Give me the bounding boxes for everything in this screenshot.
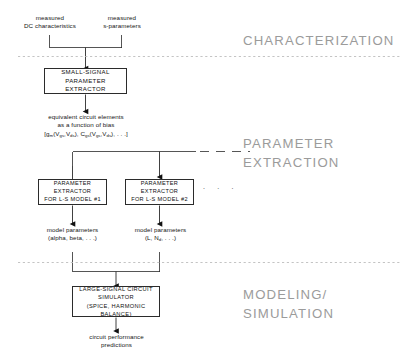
equivalent-circuit-formula: [gm(Vgs,Vds), Cgs(Vgs,Vds), . . .]	[22, 130, 150, 138]
model-params-left-line2: (alpha, beta, . . .)	[30, 234, 115, 242]
model-params-left-line1: model parameters	[30, 226, 115, 234]
input-sparam-line2: s-parameters	[82, 22, 162, 30]
box-small-signal-line2: PARAMETER EXTRACTOR	[45, 77, 126, 94]
box-extractor-2-text: PARAMETER EXTRACTOR FOR L-S MODEL #2	[126, 180, 193, 204]
formula-mid-5: ,V	[101, 130, 107, 137]
formula-mid-4: (V	[90, 130, 96, 137]
section-modeling-line2: SIMULATION	[243, 305, 334, 324]
formula-sub-ds-2: ds	[107, 133, 112, 138]
section-label-parameter-extraction: PARAMETER EXTRACTION	[243, 135, 340, 172]
box-extractor-1-text: PARAMETER EXTRACTOR FOR L-S MODEL #1	[39, 180, 106, 204]
section-label-modeling-simulation: MODELING/ SIMULATION	[243, 286, 334, 323]
box-small-signal-parameter-extractor[interactable]: SMALL-SIGNAL PARAMETER EXTRACTOR	[44, 68, 127, 94]
formula-mid-1: (V	[53, 130, 59, 137]
model-params-right-prefix: (L, N	[145, 234, 159, 241]
formula-sub-gs-2: gs	[85, 133, 90, 138]
model-params-right-sub-d: d	[159, 237, 161, 242]
box-parameter-extractor-model-2[interactable]: PARAMETER EXTRACTOR FOR L-S MODEL #2	[125, 179, 194, 205]
input-label-dc: measured DC characteristics	[6, 14, 94, 30]
formula-sub-ds-1: ds	[70, 133, 75, 138]
box-small-signal-text: SMALL-SIGNAL PARAMETER EXTRACTOR	[45, 68, 126, 94]
box-extractor-2-line1: PARAMETER EXTRACTOR	[126, 180, 193, 196]
box-extractor-1-line2: FOR L-S MODEL #1	[39, 196, 106, 204]
box-parameter-extractor-model-1[interactable]: PARAMETER EXTRACTOR FOR L-S MODEL #1	[38, 179, 107, 205]
formula-suffix: ), . . .]	[111, 130, 128, 137]
extractor-ellipsis: . . .	[203, 183, 239, 190]
box-extractor-2-line2: FOR L-S MODEL #2	[126, 196, 193, 204]
input-sparam-line1: measured	[82, 14, 162, 22]
formula-mid-3: ), C	[75, 130, 85, 137]
equivalent-circuit-line2: as a function of bias	[22, 121, 150, 129]
output-line2: predictions	[74, 341, 159, 349]
box-large-signal-circuit-simulator[interactable]: LARGE-SIGNAL CIRCUIT SIMULATOR (SPICE, H…	[72, 286, 160, 317]
input-label-sparam: measured s-parameters	[82, 14, 162, 30]
section-modeling-line1: MODELING/	[243, 286, 334, 305]
box-simulator-text: LARGE-SIGNAL CIRCUIT SIMULATOR (SPICE, H…	[73, 285, 159, 317]
section-parameter-extraction-line1: PARAMETER	[243, 135, 340, 154]
box-extractor-1-line1: PARAMETER EXTRACTOR	[39, 180, 106, 196]
equivalent-circuit-line1: equivalent circuit elements	[22, 113, 150, 121]
box-simulator-line3: (SPICE, HARMONIC BALANCE)	[73, 302, 159, 318]
section-label-characterization: CHARACTERIZATION	[243, 32, 395, 51]
formula-sub-m: m	[50, 133, 54, 138]
model-params-right-line2: (L, Nd, . . .)	[118, 234, 203, 242]
box-simulator-line2: SIMULATOR	[73, 293, 159, 301]
section-parameter-extraction-line2: EXTRACTION	[243, 154, 340, 173]
diagram-canvas: measured DC characteristics measured s-p…	[0, 0, 403, 357]
formula-sub-gs-1: gs	[60, 133, 65, 138]
output-line1: circuit performance	[74, 333, 159, 341]
equivalent-circuit-caption: equivalent circuit elements as a functio…	[22, 113, 150, 137]
formula-prefix: [g	[44, 130, 49, 137]
output-caption: circuit performance predictions	[74, 333, 159, 349]
input-dc-line1: measured	[6, 14, 94, 22]
model-params-left: model parameters (alpha, beta, . . .)	[30, 226, 115, 242]
box-small-signal-line1: SMALL-SIGNAL	[45, 68, 126, 77]
model-params-right-suffix: , . . .)	[161, 234, 176, 241]
input-dc-line2: DC characteristics	[6, 22, 94, 30]
model-params-right-line1: model parameters	[118, 226, 203, 234]
model-params-right: model parameters (L, Nd, . . .)	[118, 226, 203, 242]
box-simulator-line1: LARGE-SIGNAL CIRCUIT	[73, 285, 159, 293]
formula-sub-gs-3: gs	[96, 133, 101, 138]
